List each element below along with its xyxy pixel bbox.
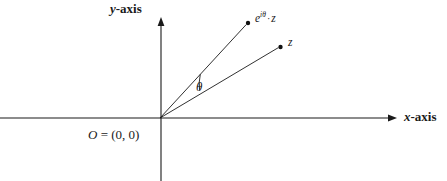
rotated-point-dot — [246, 21, 250, 25]
x-axis-arrowhead — [388, 115, 397, 122]
z-point-label: z — [288, 37, 292, 49]
x-axis-label-word: -axis — [411, 109, 437, 124]
origin-label-coords: = (0, 0) — [97, 127, 139, 142]
ray-to-z — [160, 48, 278, 118]
diagram-canvas — [0, 0, 447, 181]
origin-label-var: O — [88, 127, 97, 142]
y-axis-label: y-axis — [110, 2, 142, 15]
y-axis-arrowhead — [158, 17, 165, 26]
origin-label: O = (0, 0) — [88, 128, 139, 141]
rotated-point-label-operand: z — [271, 12, 275, 24]
z-point-dot — [278, 45, 282, 49]
complex-plane-diagram: y-axis x-axis O = (0, 0) eiθ·z z θ — [0, 0, 447, 181]
y-axis-label-word: -axis — [116, 1, 142, 16]
theta-angle-label: θ — [196, 80, 202, 93]
ray-to-rotated-point — [160, 25, 246, 118]
x-axis-label: x-axis — [404, 110, 437, 123]
rotated-point-label: eiθ·z — [255, 13, 276, 25]
